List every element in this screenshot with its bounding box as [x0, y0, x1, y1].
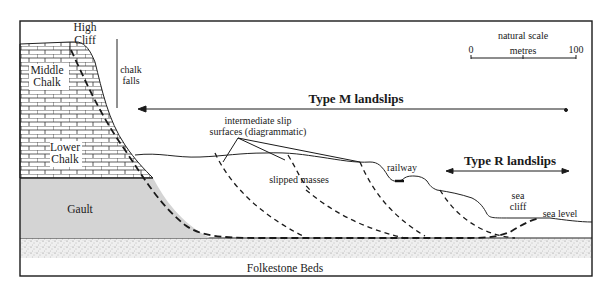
type-m-landslips-label: Type M landslips — [308, 91, 403, 106]
gault-label: Gault — [67, 203, 93, 215]
type-r-landslips-label: Type R landslips — [464, 153, 556, 168]
chalk-falls-label-2: falls — [122, 75, 139, 86]
sea-cliff-label-2: cliff — [510, 201, 527, 212]
sea-cliff-label: sea — [512, 190, 525, 201]
intermediate-slip-label: intermediate slip — [225, 115, 292, 126]
scale-unit: metres — [510, 45, 537, 56]
scale-min: 0 — [469, 44, 474, 55]
intermediate-slip-label-2: surfaces (diagrammatic) — [210, 126, 307, 138]
chalk-layer — [20, 42, 153, 178]
high-cliff-label: High — [74, 21, 97, 34]
intermediate-leader-lines — [223, 138, 360, 162]
folkestone-beds-layer — [20, 238, 592, 258]
railway-label: railway — [387, 162, 417, 173]
folkestone-beds-label: Folkestone Beds — [247, 262, 324, 274]
lower-chalk-label: Lower — [50, 141, 80, 153]
middle-chalk-label: Middle — [30, 64, 63, 76]
type-r-arrow — [446, 169, 569, 174]
scale-title: natural scale — [498, 30, 549, 41]
sea-level-label: sea level — [543, 208, 578, 219]
chalk-falls-label: chalk — [120, 64, 142, 75]
middle-chalk-label-2: Chalk — [33, 76, 61, 88]
type-m-arrow — [138, 106, 568, 112]
landslip-cross-section-diagram: High Cliff Middle Chalk Lower Chalk chal… — [0, 0, 610, 292]
slipped-masses-label: slipped masses — [269, 174, 329, 185]
high-cliff-label-2: Cliff — [74, 34, 96, 46]
gault-layer — [20, 178, 210, 238]
lower-chalk-label-2: Chalk — [51, 153, 79, 165]
scale-max: 100 — [569, 44, 584, 55]
